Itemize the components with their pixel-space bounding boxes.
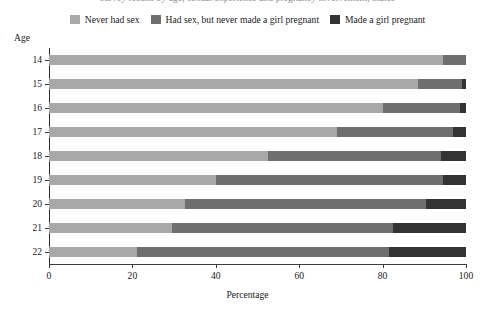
cut-off-title: survey results by age, sexual experience… [0,0,495,7]
x-axis-tick [216,264,217,268]
bar-row: 22 [49,240,466,264]
bar-segment[interactable] [49,127,337,137]
bar-segment[interactable] [460,103,466,113]
bar-segment[interactable] [49,199,185,209]
y-axis-tick [45,228,49,229]
bar-segment[interactable] [389,247,466,257]
bar-segment[interactable] [268,151,441,161]
bar-segment[interactable] [453,127,466,137]
stacked-bar[interactable] [49,103,466,113]
bar-segment[interactable] [418,79,462,89]
x-axis-tick-label: 0 [47,271,52,281]
y-axis-tick [45,204,49,205]
stacked-bar[interactable] [49,223,466,233]
bar-segment[interactable] [426,199,466,209]
x-axis-tick [132,264,133,268]
y-axis-tick [45,156,49,157]
bar-segment[interactable] [462,79,466,89]
bar-segment[interactable] [383,103,460,113]
x-axis-tick [49,264,50,268]
bar-segment[interactable] [441,151,466,161]
bar-segment[interactable] [172,223,393,233]
y-axis-tick [45,84,49,85]
legend-item: Never had sex [70,15,140,25]
legend-label: Made a girl pregnant [345,15,425,25]
legend-label: Never had sex [85,15,140,25]
stacked-bar-chart: survey results by age, sexual experience… [0,0,495,313]
x-axis-tick [466,264,467,268]
x-axis-tick-label: 80 [378,271,388,281]
y-axis-tick-label: 21 [12,223,42,233]
y-axis-tick [45,180,49,181]
legend-swatch-icon [151,15,161,24]
y-axis-tick-label: 20 [12,199,42,209]
bar-segment[interactable] [49,103,383,113]
legend-label: Had sex, but never made a girl pregnant [166,15,319,25]
stacked-bar[interactable] [49,79,466,89]
x-axis-tick [299,264,300,268]
bar-segment[interactable] [137,247,389,257]
y-axis-tick-label: 15 [12,79,42,89]
x-axis-tick-label: 100 [459,271,473,281]
bar-segment[interactable] [443,55,466,65]
legend-swatch-icon [330,15,340,24]
y-axis-tick-label: 18 [12,151,42,161]
y-axis-tick-label: 14 [12,55,42,65]
stacked-bar[interactable] [49,175,466,185]
y-axis-tick [45,108,49,109]
bar-segment[interactable] [49,151,268,161]
bar-row: 21 [49,216,466,240]
bar-row: 14 [49,48,466,72]
y-axis-tick-label: 16 [12,103,42,113]
y-axis-tick [45,252,49,253]
legend-swatch-icon [70,15,80,24]
bar-segment[interactable] [49,55,443,65]
stacked-bar[interactable] [49,199,466,209]
y-axis-tick-label: 22 [12,247,42,257]
x-axis-line [49,264,467,265]
y-axis-tick-label: 19 [12,175,42,185]
plot-area: 141516171819202122 020406080100 [49,48,466,264]
bar-segment[interactable] [393,223,466,233]
bar-segment[interactable] [49,175,216,185]
bar-row: 19 [49,168,466,192]
legend-item: Made a girl pregnant [330,15,425,25]
bar-segment[interactable] [49,247,137,257]
bar-segment[interactable] [216,175,443,185]
legend-item: Had sex, but never made a girl pregnant [151,15,319,25]
x-axis-tick-label: 60 [294,271,304,281]
bar-segment[interactable] [337,127,454,137]
bar-row: 18 [49,144,466,168]
stacked-bar[interactable] [49,247,466,257]
x-axis-title: Percentage [0,289,495,300]
bar-segment[interactable] [49,223,172,233]
y-axis-title: Age [14,32,30,43]
bar-segment[interactable] [443,175,466,185]
stacked-bar[interactable] [49,151,466,161]
stacked-bar[interactable] [49,127,466,137]
x-axis-tick [383,264,384,268]
bar-row: 15 [49,72,466,96]
bar-row: 17 [49,120,466,144]
stacked-bar[interactable] [49,55,466,65]
bar-row: 20 [49,192,466,216]
y-axis-tick [45,132,49,133]
bar-segment[interactable] [49,79,418,89]
bar-row: 16 [49,96,466,120]
chart-legend: Never had sexHad sex, but never made a g… [0,15,495,25]
x-axis-tick-label: 20 [128,271,138,281]
x-axis-tick-label: 40 [211,271,221,281]
bar-segment[interactable] [185,199,427,209]
y-axis-tick-label: 17 [12,127,42,137]
y-axis-tick [45,60,49,61]
